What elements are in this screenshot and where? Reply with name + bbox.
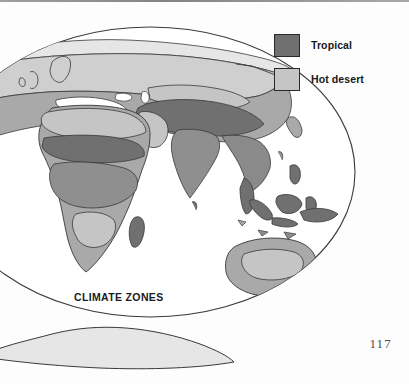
region-british-isles (30, 71, 38, 88)
legend-swatch-tropical (274, 34, 300, 57)
region-philippines (290, 165, 300, 184)
region-new-zealand (336, 272, 360, 285)
scanned-textbook-page: Tropical Hot desert CLIMATE ZONES 117 (0, 0, 409, 384)
region-ireland (19, 78, 25, 87)
legend-item-hot-desert: Hot desert (274, 62, 406, 96)
legend-item-tropical: Tropical (274, 28, 406, 62)
region-tasmania (284, 298, 292, 306)
legend-swatch-hot-desert (274, 68, 300, 91)
figure-title: CLIMATE ZONES (74, 291, 164, 303)
caspian-sea (141, 91, 149, 103)
legend-label-hot-desert: Hot desert (311, 73, 364, 85)
map-legend: Tropical Hot desert (274, 28, 406, 96)
page-number: 117 (369, 336, 392, 352)
region-new-zealand-south (320, 292, 360, 302)
black-sea (115, 93, 132, 101)
legend-label-tropical: Tropical (311, 39, 352, 51)
region-antarctica (0, 327, 234, 369)
